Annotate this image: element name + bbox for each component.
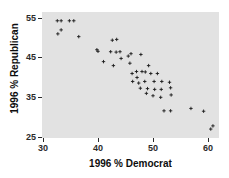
scatter-plot-figure: 55 45 35 25 30 40 50 60 1996 % Democrat … xyxy=(0,0,229,178)
x-axis-title: 1996 % Democrat xyxy=(42,158,219,169)
data-point xyxy=(109,50,112,53)
data-points-layer xyxy=(42,12,219,138)
data-point xyxy=(115,38,118,41)
data-point xyxy=(111,39,114,42)
data-point xyxy=(162,109,165,112)
plot-area xyxy=(42,12,219,138)
data-point xyxy=(135,70,138,73)
data-point xyxy=(112,64,115,67)
data-point xyxy=(139,87,142,90)
x-tick-label-50: 50 xyxy=(140,143,166,153)
data-point xyxy=(119,57,122,60)
data-point xyxy=(137,81,140,84)
x-tick-mark xyxy=(153,138,154,142)
data-point xyxy=(59,28,62,31)
data-point xyxy=(168,81,171,84)
x-tick-label-60: 60 xyxy=(195,143,221,153)
x-tick-mark xyxy=(98,138,99,142)
data-point xyxy=(202,110,205,113)
data-point xyxy=(189,107,192,110)
data-point xyxy=(209,127,212,130)
data-point xyxy=(56,19,59,22)
data-point xyxy=(114,50,117,53)
y-axis-title: 1996 % Republican xyxy=(9,0,20,139)
data-point xyxy=(149,72,152,75)
data-point xyxy=(156,72,159,75)
x-tick-label-40: 40 xyxy=(85,143,111,153)
x-tick-label-30: 30 xyxy=(30,143,56,153)
data-point xyxy=(56,32,59,35)
data-point xyxy=(159,96,162,99)
x-tick-mark xyxy=(208,138,209,142)
data-point xyxy=(127,54,130,57)
data-point xyxy=(160,80,163,83)
data-point xyxy=(169,86,172,89)
data-point xyxy=(139,53,142,56)
data-point xyxy=(146,87,149,90)
data-point xyxy=(68,19,71,22)
data-point xyxy=(102,60,105,63)
data-point xyxy=(130,72,133,75)
data-point xyxy=(118,50,121,53)
data-point xyxy=(131,80,134,83)
data-point xyxy=(152,80,155,83)
data-point xyxy=(169,109,172,112)
data-point xyxy=(144,70,147,73)
data-point xyxy=(153,88,156,91)
data-point xyxy=(160,88,163,91)
data-point xyxy=(72,19,75,22)
x-tick-mark xyxy=(43,138,44,142)
data-point xyxy=(151,94,154,97)
data-point xyxy=(135,76,138,79)
data-point xyxy=(147,64,150,67)
data-point xyxy=(145,92,148,95)
data-point xyxy=(169,93,172,96)
data-point xyxy=(129,52,132,55)
data-point xyxy=(128,62,131,65)
data-point xyxy=(140,70,143,73)
data-point xyxy=(77,35,80,38)
data-point xyxy=(143,80,146,83)
data-point xyxy=(59,19,62,22)
data-point xyxy=(211,124,214,127)
